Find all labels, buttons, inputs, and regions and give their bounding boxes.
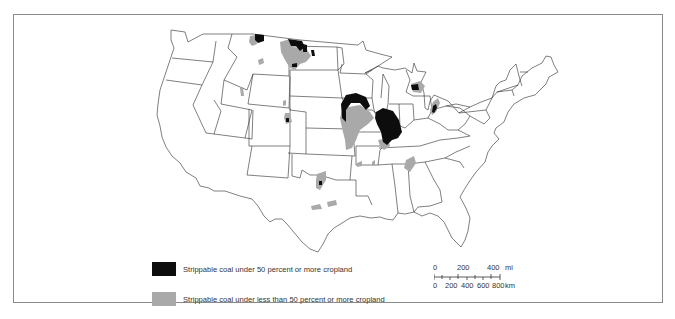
scale-mi-0: 0 <box>433 263 437 272</box>
legend-item-high-cropland: Strippable coal under 50 percent or more… <box>152 262 385 276</box>
scale-km-0: 0 <box>433 281 437 290</box>
scale-bar: 0 200 400 mi 0 200 400 600 800 km <box>433 263 543 293</box>
scale-km-600: 600 <box>477 281 490 290</box>
state-boundaries <box>157 30 558 252</box>
scale-km-800: 800 <box>492 281 505 290</box>
legend-label: Strippable coal under less than 50 perce… <box>183 295 385 304</box>
us-outline <box>157 30 558 252</box>
legend: Strippable coal under 50 percent or more… <box>152 262 385 319</box>
legend-swatch-black <box>152 262 176 276</box>
scale-ruler <box>434 273 504 281</box>
legend-label: Strippable coal under 50 percent or more… <box>183 265 352 274</box>
scale-km-400: 400 <box>461 281 474 290</box>
scale-mi-200: 200 <box>457 263 470 272</box>
scale-mi-unit: mi <box>505 263 513 272</box>
coal-low-cropland-regions <box>240 35 440 210</box>
legend-swatch-gray <box>152 292 176 306</box>
scale-km-unit: km <box>505 281 515 290</box>
scale-km-200: 200 <box>445 281 458 290</box>
legend-item-low-cropland: Strippable coal under less than 50 perce… <box>152 292 385 306</box>
scale-mi-400: 400 <box>487 263 500 272</box>
